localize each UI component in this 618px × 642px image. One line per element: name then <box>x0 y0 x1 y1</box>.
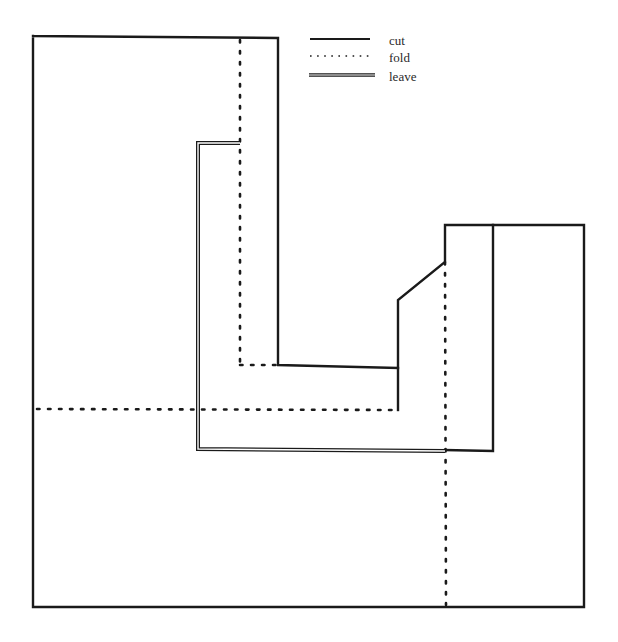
legend-fold-label: fold <box>389 51 410 64</box>
horizontal-fold-line <box>37 409 398 410</box>
legend-cut-label: cut <box>389 34 405 47</box>
cutting-pattern-diagram <box>0 0 618 642</box>
right-vertical-fold-line <box>445 262 446 605</box>
outer-boundary-cut-line <box>33 36 584 607</box>
legend-leave-label: leave <box>389 70 416 83</box>
leave-outline-inner <box>198 143 445 451</box>
legend-samples <box>309 39 375 75</box>
right-block-divider-cut-line <box>445 225 493 451</box>
leave-outline-outer <box>198 143 445 451</box>
